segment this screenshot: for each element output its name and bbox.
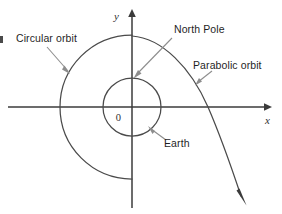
circular-orbit-leader-arrowhead	[62, 66, 70, 75]
x-axis-label: x	[264, 114, 270, 126]
circular-orbit-leader	[47, 47, 70, 74]
north-pole-leader	[134, 38, 173, 79]
parabolic-orbit-leader	[195, 71, 212, 86]
label-earth: Earth	[164, 138, 190, 149]
label-circular-orbit: Circular orbit	[16, 33, 77, 44]
north-pole-leader-line	[137, 38, 172, 74]
y-axis-arrowhead	[128, 9, 136, 17]
label-parabolic-orbit: Parabolic orbit	[193, 60, 262, 71]
orbit-diagram: y x 0 Circular orbit N	[0, 0, 282, 214]
parabolic-orbit-arrowhead	[237, 189, 247, 206]
x-axis-arrowhead	[264, 103, 272, 111]
origin-label: 0	[116, 112, 121, 123]
y-axis-label: y	[113, 10, 119, 22]
label-north-pole: North Pole	[174, 24, 225, 35]
